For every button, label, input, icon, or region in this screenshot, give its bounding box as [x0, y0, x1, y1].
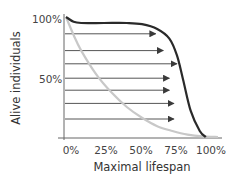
x-tick-100: 100% [196, 144, 226, 156]
arrows [65, 34, 177, 119]
axes [58, 14, 222, 140]
y-tick-100: 100% [32, 13, 62, 25]
y-tick-50: 50% [39, 73, 62, 85]
x-axis-label: Maximal lifespan [93, 160, 190, 174]
x-tick-50: 50% [129, 144, 152, 156]
y-axis-label: Alive individuals [9, 31, 23, 125]
x-tick-75: 75% [164, 144, 187, 156]
x-tick-0: 0% [63, 144, 80, 156]
survival-chart [0, 0, 245, 184]
x-tick-25: 25% [94, 144, 117, 156]
